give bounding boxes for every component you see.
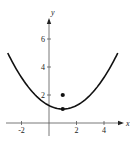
parabola-curve <box>8 53 118 109</box>
y-axis-label: y <box>50 8 55 17</box>
curve-layer <box>8 53 118 109</box>
vertex-point <box>61 107 65 111</box>
y-axis-arrow-icon <box>47 18 51 24</box>
focus-point <box>61 93 65 97</box>
ticks: -224246 <box>18 35 106 135</box>
y-tick-label: 2 <box>41 91 45 100</box>
y-tick-label: 6 <box>41 35 45 44</box>
x-tick-label: -2 <box>18 126 25 135</box>
x-tick-label: 4 <box>102 126 106 135</box>
plot-area: -224246 x y <box>0 0 134 142</box>
x-axis-label: x <box>125 119 130 128</box>
points-layer <box>61 93 65 111</box>
y-tick-label: 4 <box>41 63 45 72</box>
parabola-chart: -224246 x y <box>0 0 134 142</box>
x-tick-label: 2 <box>75 126 79 135</box>
x-axis-arrow-icon <box>118 121 124 125</box>
axes <box>6 18 124 136</box>
